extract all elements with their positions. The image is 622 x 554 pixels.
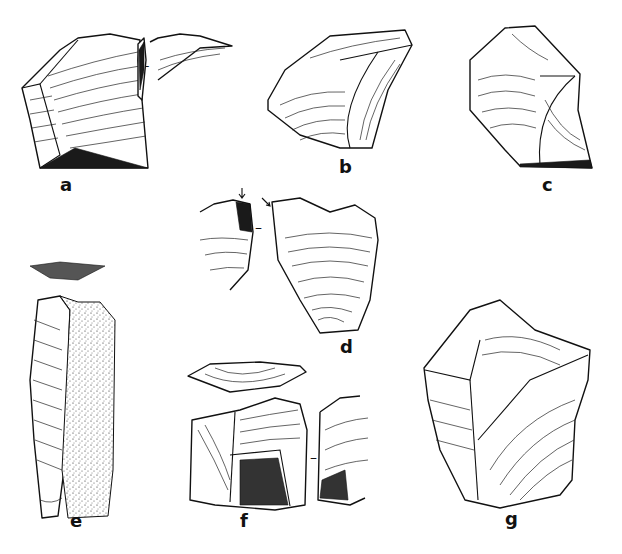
label-g: g [505, 510, 518, 528]
label-b: b [339, 158, 352, 176]
artifact-d-separator: – [255, 219, 262, 235]
artifact-f-platform [188, 362, 306, 392]
label-e: e [70, 512, 82, 530]
artifact-e-platform [30, 262, 105, 280]
artifact-a-dorsal [22, 34, 148, 168]
label-f: f [240, 512, 248, 530]
arrow-icon [262, 198, 270, 206]
arrow-icon [239, 188, 245, 198]
label-a: a [60, 176, 72, 194]
artifact-f-profile: – [310, 396, 368, 505]
artifact-e-dorsal [30, 296, 115, 518]
artifact-d-profile: – [200, 188, 262, 290]
artifact-b-dorsal [268, 30, 412, 148]
artifact-a-profile: - [138, 34, 232, 100]
artifact-g-dorsal [424, 300, 590, 508]
artifact-a-separator: - [145, 59, 149, 73]
artifact-f-dorsal [190, 398, 307, 510]
label-c: c [542, 176, 553, 194]
artifact-d-dorsal [262, 198, 378, 333]
artifact-c-dorsal [470, 26, 592, 168]
lithic-plate: - – [0, 0, 622, 554]
label-d: d [340, 338, 353, 356]
artifact-f-separator: – [310, 449, 317, 465]
